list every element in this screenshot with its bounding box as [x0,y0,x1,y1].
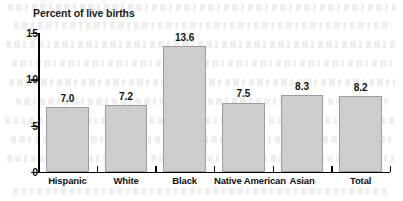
bar-value-native-american: 7.5 [222,89,265,99]
bar-value-hispanic: 7.0 [46,94,89,104]
category-label-black: Black [155,176,214,186]
y-tick-label-5: 5 [16,121,38,132]
bar-hispanic[interactable] [46,107,89,172]
x-tick-mark-5 [331,166,332,172]
x-tick-mark-3 [214,166,215,172]
category-label-total: Total [331,176,390,186]
bar-black[interactable] [163,46,206,172]
bar-native-american[interactable] [222,103,265,173]
bar-value-black: 13.6 [163,33,206,43]
category-label-hispanic: Hispanic [38,176,97,186]
category-label-asian: Asian [273,176,332,186]
plot-area: Percent of live births 15 10 5 0 [0,0,403,201]
bar-white[interactable] [105,105,148,172]
x-tick-mark-2 [155,166,156,172]
category-label-native-american: Native American [214,176,273,186]
bar-total[interactable] [339,96,382,172]
bar-value-total: 8.2 [339,83,382,93]
y-tick-label-0: 0 [16,167,38,178]
x-tick-mark-6 [390,166,391,172]
bar-value-white: 7.2 [105,92,148,102]
chart-title: Percent of live births [33,7,135,19]
y-tick-label-10: 10 [16,74,38,85]
bar-chart-figure: Percent of live births 15 10 5 0 [0,0,403,201]
bar-asian[interactable] [281,95,324,172]
x-tick-mark-0 [38,166,39,172]
x-tick-mark-1 [97,166,98,172]
bar-value-asian: 8.3 [281,82,324,92]
x-axis-line [38,172,390,174]
y-axis-line [38,33,40,173]
category-label-white: White [97,176,156,186]
x-tick-mark-4 [273,166,274,172]
y-tick-label-15: 15 [16,28,38,39]
